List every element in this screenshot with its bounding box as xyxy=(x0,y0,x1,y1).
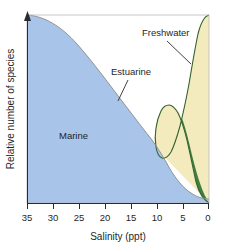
x-tick-label-25: 25 xyxy=(74,212,85,223)
y-axis-title: Relative number of species xyxy=(5,49,16,170)
x-tick-label-15: 15 xyxy=(126,212,137,223)
x-tick-label-0: 0 xyxy=(205,212,210,223)
salinity-species-area-chart: 35 30 25 20 15 10 5 0 Salinity (ppt) Rel… xyxy=(0,0,227,251)
chart-figure: 35 30 25 20 15 10 5 0 Salinity (ppt) Rel… xyxy=(0,0,227,251)
x-tick-label-35: 35 xyxy=(22,212,33,223)
x-tick-label-5: 5 xyxy=(180,212,185,223)
x-tick-label-30: 30 xyxy=(48,212,59,223)
x-tick-label-10: 10 xyxy=(152,212,163,223)
x-tick-label-20: 20 xyxy=(100,212,111,223)
label-estuarine: Estuarine xyxy=(111,66,151,77)
x-axis-title: Salinity (ppt) xyxy=(90,231,146,242)
label-freshwater: Freshwater xyxy=(142,27,190,38)
label-marine: Marine xyxy=(59,130,88,141)
